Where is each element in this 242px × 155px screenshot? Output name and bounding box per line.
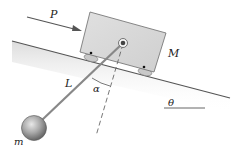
label-M: M — [167, 47, 180, 60]
diagram-svg: P M L α θ m — [0, 0, 242, 155]
label-L: L — [64, 77, 72, 90]
label-m: m — [14, 136, 23, 147]
label-P: P — [49, 8, 58, 21]
label-theta: θ — [168, 97, 174, 108]
pendulum-bob — [22, 116, 47, 141]
axle-dot-right — [143, 66, 146, 69]
diagram-canvas: P M L α θ m — [0, 0, 242, 155]
pivot-pin — [121, 41, 126, 46]
force-arrow-head — [72, 25, 82, 31]
label-alpha: α — [93, 83, 100, 94]
axle-dot-left — [90, 52, 93, 55]
